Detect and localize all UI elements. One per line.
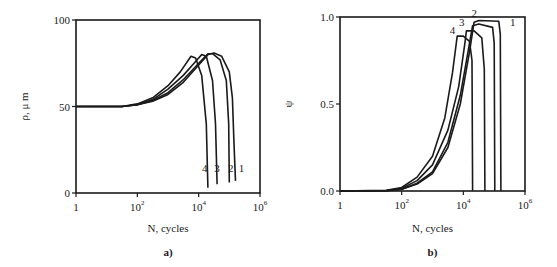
x-axis-label: N, cycles	[412, 222, 453, 234]
curve-label-2: 2	[471, 7, 477, 19]
x-tick-label: 1	[73, 201, 79, 213]
curve-label-3: 3	[459, 16, 465, 28]
figure: 0501001102104106N, cyclesρ, μ ma)1234 0.…	[0, 0, 557, 267]
x-axis-label: N, cycles	[148, 222, 189, 234]
y-axis-label: ρ, μ m	[18, 92, 30, 121]
curve-3	[76, 55, 217, 185]
y-axis-label: ψ	[282, 100, 294, 107]
curve-label-2: 2	[228, 162, 234, 174]
curve-3	[340, 31, 485, 191]
x-tick-label: 106	[518, 197, 533, 211]
panel-a-chart: 0501001102104106N, cyclesρ, μ ma)1234	[18, 14, 268, 259]
curve-1	[340, 21, 501, 192]
y-tick-label: 100	[54, 14, 71, 26]
panel-b-chart: 0.00.51.01102104106N, cyclesψb)1234	[282, 7, 533, 259]
curve-label-3: 3	[214, 162, 220, 174]
y-tick-label: 0.0	[320, 185, 334, 197]
x-tick-label: 1	[337, 199, 343, 211]
panel-caption: b)	[428, 246, 438, 259]
y-tick-label: 0.5	[320, 98, 334, 110]
x-tick-label: 104	[456, 197, 471, 211]
curve-label-4: 4	[450, 24, 456, 36]
curve-1	[76, 53, 236, 181]
x-tick-label: 102	[394, 197, 409, 211]
y-tick-label: 0	[65, 187, 71, 199]
panel-caption: a)	[163, 246, 173, 259]
curve-label-1: 1	[510, 16, 516, 28]
curve-label-4: 4	[202, 162, 208, 174]
x-tick-label: 106	[253, 199, 268, 213]
x-tick-label: 104	[191, 199, 206, 213]
y-tick-label: 50	[59, 101, 71, 113]
x-tick-label: 102	[130, 199, 145, 213]
curve-label-1: 1	[239, 162, 245, 174]
y-tick-label: 1.0	[320, 11, 334, 23]
